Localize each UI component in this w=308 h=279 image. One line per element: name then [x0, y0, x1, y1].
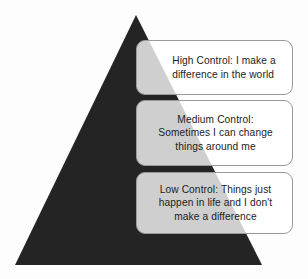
callout-medium-control-text: Medium Control: Sometimes I can change t… [158, 113, 272, 153]
callout-low-control: Low Control: Things just happen in life … [136, 172, 293, 234]
callout-low-control-text: Low Control: Things just happen in life … [159, 183, 272, 223]
callout-medium-control: Medium Control: Sometimes I can change t… [136, 100, 293, 166]
control-pyramid-diagram: High Control: I make a difference in the… [0, 0, 308, 279]
callout-high-control: High Control: I make a difference in the… [136, 40, 293, 95]
callout-high-control-text: High Control: I make a difference in the… [155, 54, 276, 80]
